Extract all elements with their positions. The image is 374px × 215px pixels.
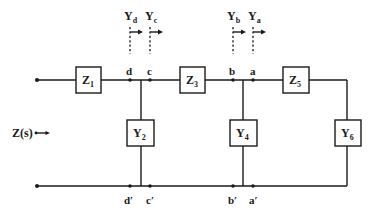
arrow-right-icon	[158, 30, 163, 35]
node-d-prime-dot	[128, 184, 132, 188]
arrow-right-icon	[46, 131, 51, 135]
z1-subscript: 1	[90, 80, 94, 89]
input-terminal-bottom	[35, 184, 39, 188]
z3-label: Z	[186, 73, 194, 87]
y4-label: Y	[236, 126, 245, 140]
node-d-label: d	[126, 65, 132, 77]
shunt-element-y4: Y4	[230, 120, 257, 146]
z5-label: Z	[289, 73, 297, 87]
yd-label: Y	[124, 9, 133, 23]
svg-text:Yb: Yb	[227, 9, 241, 25]
admittance-marker-yb: Yb	[227, 9, 246, 54]
series-element-z3: Z3	[180, 67, 205, 93]
series-element-z1: Z1	[76, 67, 101, 93]
shunt-element-y2: Y2	[127, 120, 154, 146]
admittance-marker-ya: Ya	[248, 9, 266, 54]
yd-subscript: d	[133, 16, 138, 25]
node-d-prime-label: d′	[124, 194, 133, 206]
svg-text:Yd: Yd	[124, 9, 138, 25]
node-c-prime-dot	[148, 184, 152, 188]
z3-subscript: 3	[194, 80, 198, 89]
y2-subscript: 2	[142, 133, 146, 142]
node-a-prime-label: a′	[249, 194, 258, 206]
series-element-z5: Z5	[283, 67, 309, 93]
node-b-prime-label: b′	[228, 194, 237, 206]
input-impedance-label: Z(s)	[12, 126, 33, 140]
y6-subscript: 6	[350, 133, 354, 142]
z5-subscript: 5	[297, 80, 301, 89]
arrow-right-icon	[138, 30, 143, 35]
node-c-label: c	[147, 65, 152, 77]
y2-label: Y	[133, 126, 142, 140]
node-d-dot	[128, 78, 132, 82]
svg-text:Yc: Yc	[145, 9, 158, 25]
yb-label: Y	[227, 9, 236, 23]
shunt-element-y6: Y6	[335, 120, 361, 146]
arrow-right-icon	[261, 30, 266, 35]
svg-text:Ya: Ya	[248, 9, 261, 25]
y4-subscript: 4	[245, 133, 249, 142]
node-b-dot	[231, 78, 235, 82]
yc-subscript: c	[154, 16, 158, 25]
ya-label: Y	[248, 9, 257, 23]
node-b-prime-dot	[231, 184, 235, 188]
arrow-right-icon	[241, 30, 246, 35]
ya-subscript: a	[257, 16, 261, 25]
node-a-dot	[251, 78, 255, 82]
input-impedance-indicator: Z(s)	[12, 126, 50, 140]
node-a-label: a	[250, 65, 256, 77]
admittance-marker-yc: Yc	[145, 9, 163, 54]
node-c-dot	[148, 78, 152, 82]
admittance-marker-yd: Yd	[124, 9, 143, 54]
node-b-label: b	[229, 65, 235, 77]
yc-label: Y	[145, 9, 154, 23]
y6-label: Y	[341, 126, 350, 140]
ladder-network-diagram: Z1 Z3 Z5 Y2 Y4 Y6 d c b a d′ c′ b′ a′ Yd	[0, 0, 374, 215]
input-terminal-top	[35, 78, 39, 82]
node-c-prime-label: c′	[146, 194, 154, 206]
z1-label: Z	[82, 73, 90, 87]
node-a-prime-dot	[251, 184, 255, 188]
yb-subscript: b	[236, 16, 241, 25]
